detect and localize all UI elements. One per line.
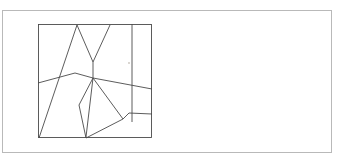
faint-speck-mark	[128, 62, 130, 64]
line-drawing-svg	[0, 0, 351, 164]
figure-canvas	[0, 0, 351, 164]
outer-border	[3, 11, 332, 153]
